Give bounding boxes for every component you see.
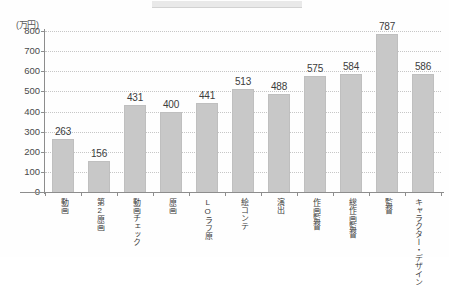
bar-slot (88, 31, 110, 192)
category-label-column: キャラクター・ (413, 198, 421, 254)
y-tick-label: 200 (8, 146, 40, 157)
bar-slot (124, 31, 146, 192)
y-tick-label: 100 (8, 166, 40, 177)
bar-series (45, 31, 441, 192)
bar-slot (232, 31, 254, 192)
bar (52, 139, 74, 192)
bar-value-label: 441 (193, 90, 221, 101)
y-tick-label: 500 (8, 85, 40, 96)
category-label-column: LOラフ原 (203, 198, 211, 240)
bar-slot (196, 31, 218, 192)
category-label-column: 総作画監督 (347, 198, 355, 238)
bar-value-label: 400 (157, 99, 185, 110)
bar-value-label: 584 (337, 61, 365, 72)
y-tick-label: 600 (8, 65, 40, 76)
bar (160, 112, 182, 193)
category-label-column: 原画 (167, 198, 175, 214)
bar-slot (376, 31, 398, 192)
x-tick-mark (333, 192, 334, 196)
category-label: キャラクター・デザイン (413, 198, 421, 286)
category-label-column: 動画 (59, 198, 67, 214)
category-label: 作画監督 (311, 198, 319, 230)
bar-value-label: 156 (85, 148, 113, 159)
bar-value-label: 586 (409, 61, 437, 72)
bar-value-label: 513 (229, 76, 257, 87)
category-label-column: 動画チェック (131, 198, 139, 246)
scan-artifact-line (152, 7, 302, 8)
x-tick-mark (81, 192, 82, 196)
category-label: 演出 (275, 198, 283, 214)
x-tick-mark (189, 192, 190, 196)
x-tick-mark (261, 192, 262, 196)
bar (268, 94, 290, 192)
category-label-column: 作画監督 (311, 198, 319, 230)
bar (304, 76, 326, 192)
bar (340, 74, 362, 192)
x-axis-line (20, 192, 444, 193)
category-label: 動画チェック (131, 198, 139, 246)
category-label-column: デザイン (413, 254, 421, 286)
category-label: 総作画監督 (347, 198, 355, 238)
y-tick-label: 700 (8, 45, 40, 56)
y-tick-label: 400 (8, 106, 40, 117)
x-tick-mark (441, 192, 442, 196)
category-label: 絵コンテ (239, 198, 247, 230)
category-label-column: 演出 (275, 198, 283, 214)
x-tick-mark (225, 192, 226, 196)
bar (412, 74, 434, 192)
bar-value-label: 488 (265, 81, 293, 92)
bar (124, 105, 146, 192)
bar-slot (52, 31, 74, 192)
bar (196, 103, 218, 192)
category-label: LOラフ原 (203, 198, 211, 240)
category-label: 原画 (167, 198, 175, 214)
bar-value-label: 575 (301, 63, 329, 74)
bar (376, 34, 398, 192)
category-label: 監督 (383, 198, 391, 214)
bar (88, 161, 110, 192)
bar-slot (304, 31, 326, 192)
category-label-column: 第2原画 (95, 198, 103, 231)
bar-slot (340, 31, 362, 192)
bar-value-label: 263 (49, 126, 77, 137)
x-tick-mark (153, 192, 154, 196)
category-label: 動画 (59, 198, 67, 214)
category-label: 第2原画 (95, 198, 103, 231)
x-tick-mark (297, 192, 298, 196)
category-label-column: 絵コンテ (239, 198, 247, 230)
x-tick-mark (117, 192, 118, 196)
bar-value-label: 431 (121, 92, 149, 103)
x-tick-mark (405, 192, 406, 196)
bar (232, 89, 254, 192)
category-label-column: 監督 (383, 198, 391, 214)
y-tick-label: 300 (8, 126, 40, 137)
x-tick-mark (45, 192, 46, 196)
bar-value-label: 787 (373, 21, 401, 32)
bar-slot (268, 31, 290, 192)
bar-slot (412, 31, 434, 192)
y-tick-label: 800 (8, 25, 40, 36)
x-tick-mark (369, 192, 370, 196)
bar-slot (160, 31, 182, 192)
